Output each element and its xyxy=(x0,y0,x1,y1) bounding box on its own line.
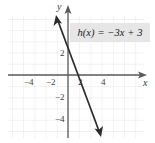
x-axis-label: x xyxy=(143,78,147,88)
y-tick-label-neg2: −2 xyxy=(55,93,65,102)
equation-label-text: h(x) = −3x + 3 xyxy=(77,27,142,38)
equation-label-box: h(x) = −3x + 3 xyxy=(70,23,150,42)
x-tick-label-pos2: 2 xyxy=(78,78,83,87)
x-tick-label-pos4: 4 xyxy=(101,78,106,87)
y-tick-label-pos2: 2 xyxy=(60,49,65,58)
y-axis-label: y xyxy=(57,2,61,12)
graph-figure: −4 −2 2 4 2 −2 −4 y x h(x) = −3x + 3 xyxy=(0,0,155,143)
x-tick-label-neg2: −2 xyxy=(46,78,56,87)
y-tick-label-neg4: −4 xyxy=(55,115,65,124)
coordinate-plane xyxy=(0,0,155,143)
x-tick-label-neg4: −4 xyxy=(24,78,34,87)
